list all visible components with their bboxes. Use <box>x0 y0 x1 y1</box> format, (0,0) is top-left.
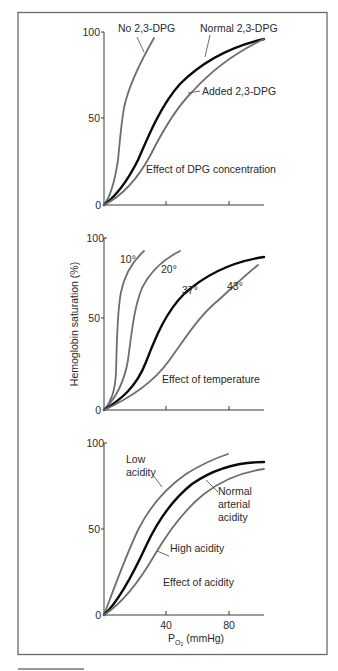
curve-no-dpg <box>104 38 154 205</box>
y-tick-100: 100 <box>82 26 100 38</box>
figure-frame <box>18 13 327 655</box>
curve-normal-dpg <box>104 39 264 205</box>
curve-10deg <box>104 251 144 410</box>
y-tick-100: 100 <box>86 437 104 449</box>
y-tick-0: 0 <box>95 404 101 416</box>
label-low-acidity-2: acidity <box>126 466 157 478</box>
label-low-acidity-1: Low <box>126 453 146 465</box>
y-tick-0: 0 <box>95 609 101 621</box>
y-tick-0: 0 <box>95 199 101 211</box>
label-normal-acidity-1: Normal <box>218 485 252 497</box>
panel-acidity: 100 50 0 40 80 Low acidity Normal arteri… <box>86 437 264 647</box>
label-no-dpg: No 2,3-DPG <box>118 22 175 34</box>
curve-added-dpg <box>104 39 264 205</box>
label-normal-dpg: Normal 2,3-DPG <box>200 22 278 34</box>
caption-acidity: Effect of acidity <box>163 576 235 588</box>
label-high-acidity: High acidity <box>170 542 225 554</box>
y-tick-100: 100 <box>86 232 104 244</box>
figure-canvas: Hemoglobin saturation (%) 100 50 0 No 2,… <box>0 0 338 671</box>
caption-temperature: Effect of temperature <box>162 373 260 385</box>
panel-dpg: 100 50 0 No 2,3-DPG Normal 2,3-DPG Added… <box>82 22 277 211</box>
y-axis-label: Hemoglobin saturation (%) <box>68 262 80 386</box>
label-43deg: 43° <box>227 280 243 292</box>
label-added-dpg: Added 2,3-DPG <box>202 85 276 97</box>
label-normal-acidity-3: acidity <box>218 511 249 523</box>
y-tick-50: 50 <box>88 312 100 324</box>
label-10deg: 10° <box>120 253 136 265</box>
x-tick-80: 80 <box>223 619 235 631</box>
label-20deg: 20° <box>161 263 177 275</box>
label-37deg: 37° <box>182 284 198 296</box>
x-tick-40: 40 <box>160 619 172 631</box>
panel-temperature: 100 50 0 10° 20° 37° 43° Effect of tempe… <box>86 232 264 416</box>
y-tick-50: 50 <box>88 112 100 124</box>
y-tick-50: 50 <box>88 523 100 535</box>
x-axis-label: PO2 (mmHg) <box>168 632 224 647</box>
label-normal-acidity-2: arterial <box>218 498 250 510</box>
caption-dpg: Effect of DPG concentration <box>146 163 276 175</box>
